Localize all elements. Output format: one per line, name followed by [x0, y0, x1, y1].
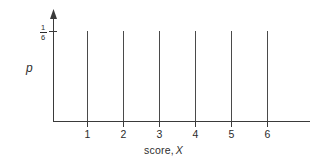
probability-spikes [88, 31, 268, 121]
y-axis [49, 9, 57, 122]
fraction-denominator: 6 [38, 33, 48, 41]
x-axis-title-text: score, [144, 144, 174, 156]
y-axis-title: p [26, 62, 33, 74]
x-axis [53, 122, 310, 127]
x-tick-label-3: 3 [152, 129, 168, 140]
fraction-numerator: 1 [38, 24, 48, 32]
probability-distribution-figure: p 1 6 1 2 3 4 5 6 score,X [0, 0, 323, 160]
x-axis-title-variable: X [174, 144, 183, 156]
x-tick-label-1: 1 [80, 129, 96, 140]
y-axis-arrowhead [50, 9, 57, 19]
x-axis-title: score,X [144, 145, 183, 156]
y-tick-label-one-sixth: 1 6 [38, 24, 48, 41]
x-tick-label-5: 5 [224, 129, 240, 140]
x-tick-label-4: 4 [188, 129, 204, 140]
x-tick-label-2: 2 [116, 129, 132, 140]
x-tick-label-6: 6 [260, 129, 276, 140]
